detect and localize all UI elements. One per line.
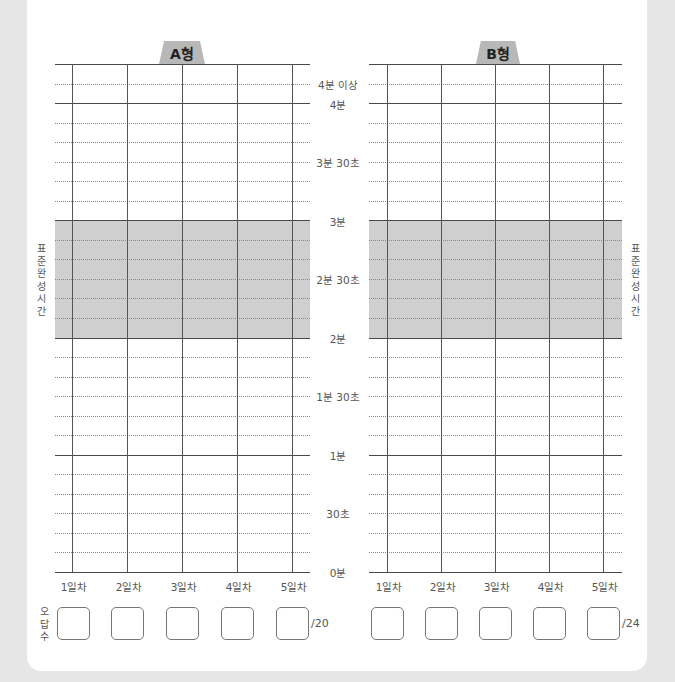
chart-a-day-4: 4일차 — [226, 579, 253, 594]
chart-a-grid — [55, 64, 310, 572]
y-label-2min30: 2분 30초 — [303, 272, 373, 287]
chart-b-tab: B형 — [476, 41, 520, 64]
chart-a-tab-label: A형 — [170, 43, 194, 63]
chart-b-error-input-day-2[interactable] — [425, 607, 458, 640]
grid-line-day — [387, 64, 388, 572]
chart-a-side-label: 표준완성시간 — [35, 243, 47, 318]
chart-a-day-5: 5일차 — [281, 579, 308, 594]
chart-a-error-input-day-3[interactable] — [166, 607, 199, 640]
chart-b-tab-label: B형 — [486, 43, 510, 63]
chart-a-error-input-day-2[interactable] — [111, 607, 144, 640]
chart-b-error-total: /24 — [622, 617, 640, 630]
y-label-1min: 1분 — [303, 448, 373, 463]
y-label-1min30: 1분 30초 — [303, 389, 373, 404]
chart-b-day-2: 2일차 — [430, 579, 457, 594]
grid-line-day — [441, 64, 442, 572]
grid-line-day — [237, 64, 238, 572]
chart-b-error-input-day-4[interactable] — [533, 607, 566, 640]
grid-line-day — [549, 64, 550, 572]
chart-a-error-input-day-1[interactable] — [57, 607, 90, 640]
chart-b-side-label: 표준완성시간 — [629, 243, 641, 318]
y-label-30sec: 30초 — [303, 506, 373, 521]
chart-b-error-input-day-1[interactable] — [371, 607, 404, 640]
y-label-2min: 2분 — [303, 331, 373, 346]
grid-line-day — [292, 64, 293, 572]
chart-a-day-2: 2일차 — [116, 579, 143, 594]
chart-a-tab: A형 — [159, 41, 205, 64]
chart-b-grid — [369, 64, 622, 572]
grid-line-major — [369, 572, 622, 573]
grid-line-day — [495, 64, 496, 572]
y-label-4min-plus: 4분 이상 — [303, 77, 373, 92]
y-label-3min30: 3분 30초 — [303, 155, 373, 170]
grid-line-major — [55, 572, 310, 573]
chart-a-error-input-day-4[interactable] — [221, 607, 254, 640]
chart-b-error-input-day-5[interactable] — [587, 607, 620, 640]
grid-line-day — [127, 64, 128, 572]
grid-line-day — [603, 64, 604, 572]
chart-a-day-1: 1일차 — [61, 579, 88, 594]
y-label-3min: 3분 — [303, 214, 373, 229]
grid-line-day — [72, 64, 73, 572]
chart-b-day-4: 4일차 — [538, 579, 565, 594]
error-count-label: 오답수 — [38, 606, 50, 644]
chart-a-day-3: 3일차 — [171, 579, 198, 594]
chart-b-day-3: 3일차 — [484, 579, 511, 594]
grid-line-day — [182, 64, 183, 572]
chart-b-day-1: 1일차 — [376, 579, 403, 594]
chart-a-error-input-day-5[interactable] — [276, 607, 309, 640]
chart-b-error-input-day-3[interactable] — [479, 607, 512, 640]
chart-b-day-5: 5일차 — [592, 579, 619, 594]
y-label-0min: 0분 — [303, 565, 373, 580]
y-label-4min: 4분 — [303, 97, 373, 112]
chart-a-error-total: /20 — [311, 617, 329, 630]
